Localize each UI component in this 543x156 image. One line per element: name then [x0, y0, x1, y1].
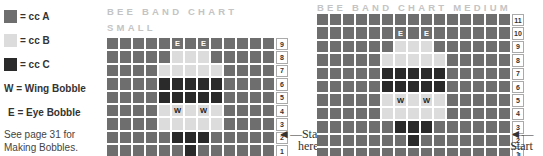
- chart-cell-cc-c: [395, 68, 406, 79]
- chart-cell-cc-b: [198, 51, 209, 62]
- chart-cell-cc-a: [369, 41, 380, 52]
- chart-cell-cc-a: [263, 78, 274, 89]
- row-number: 10: [512, 27, 524, 39]
- chart-cell-cc-a: [237, 105, 248, 116]
- chart-cell-cc-c: [185, 132, 196, 143]
- chart-cell-cc-c: [421, 68, 432, 79]
- chart-cell-cc-c: [172, 132, 183, 143]
- chart-cell-cc-a: [211, 145, 222, 156]
- eye-bobble-cell: E: [198, 38, 209, 49]
- chart-cell-cc-b: [421, 108, 432, 119]
- chart-cell-cc-a: [343, 121, 354, 132]
- chart-cell-cc-a: [185, 38, 196, 49]
- legend-item-cc-c: = cc C: [4, 58, 50, 71]
- chart-cell-cc-c: [421, 121, 432, 132]
- legend-label: W = Wing Bobble: [4, 83, 86, 94]
- chart-cell-cc-b: [185, 105, 196, 116]
- chart-cell-cc-b: [185, 51, 196, 62]
- chart-cell-cc-b: [421, 41, 432, 52]
- chart-cell-cc-b: [434, 54, 445, 65]
- chart-cell-cc-a: [382, 41, 393, 52]
- chart-cell-cc-a: [447, 14, 458, 25]
- chart-cell-cc-a: [146, 92, 157, 103]
- chart-cell-cc-a: [369, 68, 380, 79]
- chart-cell-cc-a: [447, 27, 458, 38]
- chart-cell-cc-a: [120, 92, 131, 103]
- row-number: 6: [276, 78, 288, 90]
- legend-item-cc-b: = cc B: [4, 34, 50, 47]
- row-number: 6: [512, 81, 524, 93]
- chart-cell-cc-a: [146, 51, 157, 62]
- chart-cell-cc-a: [486, 54, 497, 65]
- chart-cell-cc-a: [486, 108, 497, 119]
- chart-cell-cc-a: [460, 54, 471, 65]
- chart-cell-cc-a: [107, 78, 118, 89]
- here-text: here: [500, 152, 543, 156]
- chart-cell-cc-a: [317, 108, 328, 119]
- chart-cell-cc-a: [146, 38, 157, 49]
- chart-cell-cc-b: [408, 41, 419, 52]
- chart-cell-cc-a: [133, 38, 144, 49]
- chart-cell-cc-a: [224, 105, 235, 116]
- chart-cell-cc-a: [146, 105, 157, 116]
- chart-cell-cc-a: [211, 51, 222, 62]
- chart-cell-cc-a: [486, 121, 497, 132]
- chart-cell-cc-a: [408, 14, 419, 25]
- chart-cell-cc-c: [211, 78, 222, 89]
- chart-cell-cc-a: [395, 135, 406, 146]
- chart-cell-cc-a: [460, 121, 471, 132]
- chart-cell-cc-a: [343, 81, 354, 92]
- chart-cell-cc-c: [198, 92, 209, 103]
- wing-bobble-cell: W: [172, 105, 183, 116]
- chart-cell-cc-a: [211, 38, 222, 49]
- chart-cell-cc-a: [473, 54, 484, 65]
- row-number: 5: [276, 92, 288, 104]
- wing-bobble-cell: W: [395, 94, 406, 105]
- chart-cell-cc-a: [473, 148, 484, 156]
- chart-cell-cc-a: [237, 132, 248, 143]
- wing-bobble-cell: W: [198, 105, 209, 116]
- chart-cell-cc-a: [499, 14, 510, 25]
- legend-item-wing-bobble: W = Wing Bobble: [4, 83, 86, 94]
- chart-cell-cc-a: [224, 145, 235, 156]
- chart-cell-cc-a: [224, 65, 235, 76]
- chart-cell-cc-a: [237, 51, 248, 62]
- chart-cell-cc-a: [447, 135, 458, 146]
- chart-cell-cc-a: [120, 51, 131, 62]
- chart-cell-cc-a: [434, 148, 445, 156]
- chart-cell-cc-a: [250, 118, 261, 129]
- chart-cell-cc-a: [447, 81, 458, 92]
- chart-cell-cc-a: [330, 68, 341, 79]
- chart-cell-cc-a: [356, 54, 367, 65]
- row-number: 7: [512, 68, 524, 80]
- chart-cell-cc-a: [330, 94, 341, 105]
- chart-cell-cc-b: [172, 118, 183, 129]
- chart-cell-cc-c: [211, 92, 222, 103]
- row-number: 7: [276, 65, 288, 77]
- chart-cell-cc-a: [369, 148, 380, 156]
- chart-cell-cc-a: [146, 118, 157, 129]
- chart-cell-cc-a: [486, 68, 497, 79]
- chart-cell-cc-a: [499, 27, 510, 38]
- chart-cell-cc-a: [343, 148, 354, 156]
- chart-cell-cc-a: [107, 118, 118, 129]
- chart-cell-cc-a: [250, 51, 261, 62]
- chart-cell-cc-b: [211, 118, 222, 129]
- chart-cell-cc-a: [369, 108, 380, 119]
- chart-cell-cc-a: [343, 41, 354, 52]
- chart-cell-cc-a: [107, 105, 118, 116]
- chart-cell-cc-a: [330, 27, 341, 38]
- chart-cell-cc-a: [460, 148, 471, 156]
- chart-cell-cc-c: [172, 78, 183, 89]
- eye-bobble-cell: E: [172, 38, 183, 49]
- chart-cell-cc-a: [263, 51, 274, 62]
- row-number: 4: [276, 105, 288, 117]
- chart-cell-cc-b: [421, 54, 432, 65]
- chart-cell-cc-a: [224, 118, 235, 129]
- chart-cell-cc-a: [343, 68, 354, 79]
- chart-cell-cc-a: [486, 14, 497, 25]
- row-number: 11: [512, 14, 524, 26]
- chart-cell-cc-a: [198, 145, 209, 156]
- chart-cell-cc-a: [369, 135, 380, 146]
- chart-cell-cc-a: [486, 148, 497, 156]
